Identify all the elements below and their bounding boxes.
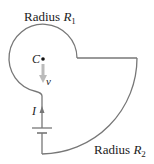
velocity-label: v — [46, 75, 51, 87]
radius2-label: Radius R2 — [94, 142, 146, 159]
current-arrow-icon — [40, 106, 45, 113]
center-point-icon — [41, 57, 45, 61]
wire-arc-r2 — [42, 58, 137, 154]
current-label: I — [31, 104, 37, 118]
center-label: C — [32, 52, 41, 66]
circuit-diagram: Radius R1 C v I Radius R2 — [0, 0, 154, 164]
radius1-label: Radius R1 — [24, 9, 76, 26]
